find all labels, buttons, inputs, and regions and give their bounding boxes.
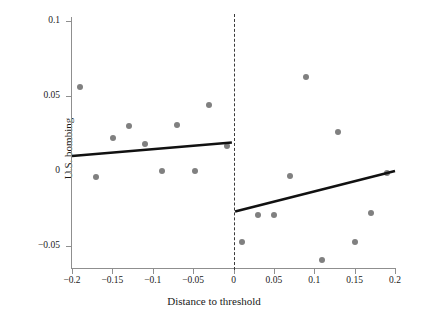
- y-tick-mark: [66, 171, 71, 172]
- data-point: [368, 210, 374, 216]
- y-tick-label: 0.05: [0, 91, 60, 101]
- x-tick-label: 0: [231, 276, 236, 286]
- y-tick-label: −0.05: [0, 241, 60, 251]
- x-tick-mark: [274, 269, 275, 274]
- y-tick-mark: [66, 96, 71, 97]
- regression-discontinuity-chart: U.S. bombing 0.10.050−0.05 −0.2−0.15−0.1…: [0, 0, 428, 318]
- data-point: [352, 239, 358, 245]
- data-point: [206, 102, 212, 108]
- y-tick-mark: [66, 246, 71, 247]
- x-tick-label: 0.2: [389, 276, 401, 286]
- data-point: [224, 143, 230, 149]
- x-tick-label: −0.1: [144, 276, 161, 286]
- data-point: [384, 170, 390, 176]
- regression-fit-line: [235, 171, 395, 212]
- x-tick-mark: [193, 269, 194, 274]
- data-point: [126, 123, 132, 129]
- data-point: [271, 212, 277, 218]
- x-tick-mark: [72, 269, 73, 274]
- y-tick-mark: [66, 21, 71, 22]
- x-tick-label: −0.15: [101, 276, 123, 286]
- x-tick-mark: [153, 269, 154, 274]
- data-point: [255, 212, 261, 218]
- x-tick-mark: [314, 269, 315, 274]
- regression-fit-line: [72, 143, 232, 157]
- data-point: [303, 74, 309, 80]
- x-tick-label: 0.1: [308, 276, 320, 286]
- x-tick-label: −0.05: [182, 276, 204, 286]
- data-point: [319, 257, 325, 263]
- data-point: [192, 168, 198, 174]
- data-point: [335, 129, 341, 135]
- data-point: [159, 168, 165, 174]
- y-tick-label: 0.1: [0, 16, 60, 26]
- data-point: [93, 174, 99, 180]
- data-point: [110, 135, 116, 141]
- x-tick-mark: [395, 269, 396, 274]
- data-point: [174, 122, 180, 128]
- y-tick-label: 0: [0, 166, 60, 176]
- x-tick-mark: [355, 269, 356, 274]
- data-point: [142, 141, 148, 147]
- x-tick-label: −0.2: [63, 276, 80, 286]
- data-point: [287, 173, 293, 179]
- y-axis-line: [71, 17, 72, 269]
- x-tick-mark: [112, 269, 113, 274]
- x-tick-label: 0.15: [346, 276, 363, 286]
- data-point: [77, 84, 83, 90]
- x-tick-label: 0.05: [266, 276, 283, 286]
- x-axis-title: Distance to threshold: [0, 296, 428, 307]
- data-point: [239, 239, 245, 245]
- threshold-dashed-line: [234, 14, 235, 270]
